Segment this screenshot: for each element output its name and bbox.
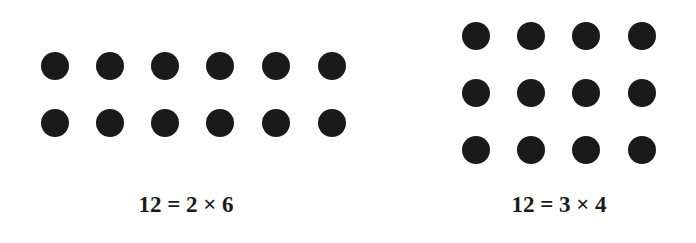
equation-label-2x6: 12 = 2 × 6 xyxy=(138,192,233,218)
dot-icon xyxy=(517,79,545,107)
dot-icon xyxy=(462,79,490,107)
dot-icon xyxy=(628,136,656,164)
dot-icon xyxy=(572,136,600,164)
dot-icon xyxy=(628,22,656,50)
dot-icon xyxy=(572,79,600,107)
equation-label-3x4: 12 = 3 × 4 xyxy=(511,192,606,218)
dot-icon xyxy=(517,136,545,164)
dot-icon xyxy=(462,136,490,164)
dot-icon xyxy=(572,22,600,50)
dot-icon xyxy=(517,22,545,50)
dot-icon xyxy=(628,79,656,107)
dot-icon xyxy=(462,22,490,50)
